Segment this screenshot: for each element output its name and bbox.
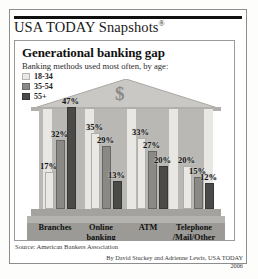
bar-value-label: 20% bbox=[178, 155, 195, 165]
legend-swatch-35-54 bbox=[22, 83, 30, 90]
credit-year: 2006 bbox=[230, 262, 243, 269]
building-step-lower bbox=[27, 216, 225, 223]
credit-authors: By David Stuckey and Adrienne Lewis, USA… bbox=[106, 254, 243, 261]
masthead-brand: USA TODAY Snapshots bbox=[14, 19, 159, 35]
credit-note: By David Stuckey and Adrienne Lewis, USA… bbox=[106, 254, 243, 269]
bar-value-label: 32% bbox=[51, 129, 68, 139]
legend-swatch-18-34 bbox=[22, 73, 30, 80]
bar-value-label: 47% bbox=[62, 96, 79, 106]
chart-card: $ Generational banking gap Banking metho… bbox=[14, 40, 235, 241]
bar-55plus bbox=[159, 166, 168, 209]
snapshot-figure: USA TODAY Snapshots® $ Generational bank… bbox=[0, 0, 258, 279]
legend-label: 55+ bbox=[34, 93, 47, 101]
legend-swatch-55-plus bbox=[22, 93, 30, 100]
legend-label: 35-54 bbox=[34, 83, 53, 91]
bar-value-label: 17% bbox=[40, 161, 57, 171]
bar-value-label: 33% bbox=[132, 127, 149, 137]
masthead-title: USA TODAY Snapshots® bbox=[14, 19, 242, 38]
bar-value-label: 27% bbox=[143, 140, 160, 150]
bar-value-label: 20% bbox=[154, 155, 171, 165]
legend-item: 18-34 bbox=[22, 72, 53, 81]
bar-55plus bbox=[113, 181, 122, 209]
bar-value-label: 13% bbox=[108, 170, 125, 180]
category-label-telephone: Telephone/Mail/Other bbox=[166, 223, 222, 241]
legend: 18-34 35-54 55+ bbox=[22, 72, 53, 102]
bar-55plus bbox=[67, 107, 76, 209]
chart-title: Generational banking gap bbox=[22, 45, 165, 61]
source-note: Source: American Bankers Association bbox=[15, 243, 118, 250]
plot-area: 17%32%47%35%29%13%33%27%20%20%15%12% bbox=[39, 101, 213, 209]
bar-value-label: 29% bbox=[97, 135, 114, 145]
bar-value-label: 35% bbox=[86, 122, 103, 132]
building-step-upper bbox=[31, 209, 221, 216]
bar-35-54 bbox=[56, 140, 65, 209]
legend-item: 55+ bbox=[22, 92, 53, 101]
bar-55plus bbox=[205, 183, 214, 209]
registered-mark: ® bbox=[159, 19, 165, 28]
legend-label: 18-34 bbox=[34, 73, 53, 81]
legend-item: 35-54 bbox=[22, 82, 53, 91]
bar-18-34 bbox=[45, 172, 54, 209]
bar-value-label: 12% bbox=[200, 172, 217, 182]
chart-subtitle: Banking methods used most often, by age: bbox=[22, 61, 168, 71]
